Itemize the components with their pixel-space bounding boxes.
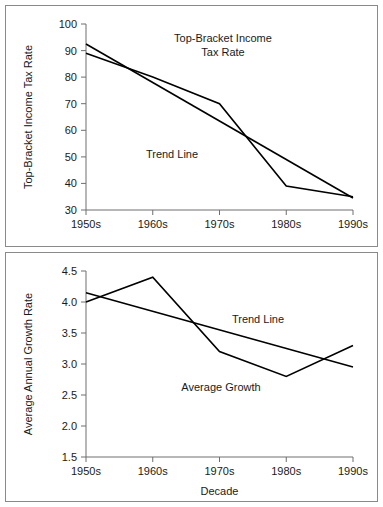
top-annotation-series-line1: Top-Bracket Income [174,32,272,44]
bottom-xtick-label-1970s: 1970s [205,465,235,477]
top-xtick-label-1960s: 1960s [138,218,168,230]
bottom-chart-panel: 1.5 2.0 2.5 3.0 3.5 4.0 4.5 1950s 1960s … [5,252,378,502]
top-xtick-label-1990s: 1990s [338,218,368,230]
bottom-chart-svg: 1.5 2.0 2.5 3.0 3.5 4.0 4.5 1950s 1960s … [6,253,377,501]
bottom-ytick-label-2-0: 2.0 [62,420,77,432]
top-ytick-label-100: 100 [59,18,77,30]
top-chart-panel: 30 40 50 60 70 80 90 100 1950s 1960s 197… [5,5,378,247]
top-y-axis-title: Top-Bracket Income Tax Rate [22,45,34,189]
top-ytick-label-70: 70 [65,98,77,110]
top-ytick-label-90: 90 [65,45,77,57]
top-ytick-label-60: 60 [65,124,77,136]
bottom-annotation-trend: Trend Line [232,313,284,325]
top-annotation-trend: Trend Line [146,148,198,160]
bottom-xtick-label-1990s: 1990s [338,465,368,477]
bottom-ytick-label-1-5: 1.5 [62,451,77,463]
top-chart-svg: 30 40 50 60 70 80 90 100 1950s 1960s 197… [6,6,377,246]
top-xtick-label-1950s: 1950s [71,218,101,230]
bottom-x-axis-title: Decade [201,485,239,497]
top-ytick-label-80: 80 [65,71,77,83]
top-trend-line [86,44,353,198]
bottom-xtick-label-1960s: 1960s [138,465,168,477]
top-xtick-label-1970s: 1970s [205,218,235,230]
top-ytick-label-40: 40 [65,177,77,189]
top-ytick-label-30: 30 [65,204,77,216]
bottom-ytick-label-4-5: 4.5 [62,265,77,277]
top-ytick-label-50: 50 [65,151,77,163]
bottom-y-axis-title: Average Annual Growth Rate [22,293,34,435]
bottom-ytick-label-4-0: 4.0 [62,296,77,308]
bottom-xtick-label-1950s: 1950s [71,465,101,477]
bottom-series-average-growth-line [86,277,353,376]
bottom-ytick-label-3-0: 3.0 [62,358,77,370]
bottom-xtick-label-1980s: 1980s [271,465,301,477]
bottom-ytick-label-2-5: 2.5 [62,389,77,401]
bottom-annotation-series: Average Growth [181,381,260,393]
bottom-ytick-label-3-5: 3.5 [62,327,77,339]
top-annotation-series-line2: Tax Rate [201,46,244,58]
top-xtick-label-1980s: 1980s [271,218,301,230]
bottom-trend-line [86,293,353,367]
figure-root: 30 40 50 60 70 80 90 100 1950s 1960s 197… [0,0,383,507]
